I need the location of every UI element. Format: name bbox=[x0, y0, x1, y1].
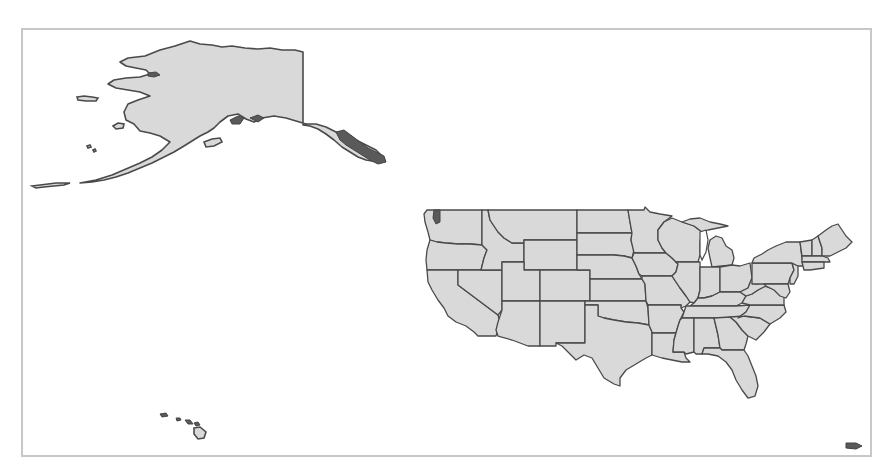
state-ks[interactable] bbox=[590, 279, 646, 301]
state-wy[interactable] bbox=[524, 240, 577, 270]
state-vt[interactable] bbox=[800, 240, 812, 256]
state-nd[interactable] bbox=[577, 210, 632, 233]
us-map: United States map bbox=[0, 0, 890, 471]
state-ct[interactable] bbox=[802, 262, 824, 270]
state-oh[interactable] bbox=[720, 263, 752, 292]
contiguous-us-region[interactable] bbox=[424, 207, 852, 398]
state-pa[interactable] bbox=[752, 263, 794, 284]
state-sd[interactable] bbox=[577, 233, 634, 258]
state-or[interactable] bbox=[426, 240, 487, 270]
state-co[interactable] bbox=[540, 270, 590, 301]
hawaii-region[interactable] bbox=[160, 413, 206, 439]
state-fl[interactable] bbox=[702, 348, 758, 398]
puerto-rico-region[interactable] bbox=[846, 443, 862, 449]
state-me[interactable] bbox=[818, 224, 852, 256]
state-wa[interactable] bbox=[424, 210, 482, 245]
state-ny[interactable] bbox=[752, 242, 804, 266]
state-ma[interactable] bbox=[802, 256, 830, 262]
state-mi[interactable] bbox=[708, 236, 734, 267]
state-nm[interactable] bbox=[540, 301, 585, 346]
state-az[interactable] bbox=[496, 301, 540, 346]
alaska-region[interactable] bbox=[32, 41, 386, 188]
lake-michigan bbox=[700, 230, 708, 260]
